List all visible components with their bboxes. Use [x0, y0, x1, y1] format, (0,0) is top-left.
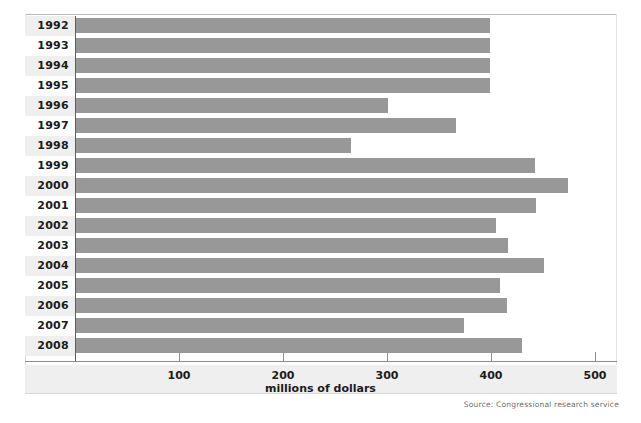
bar — [75, 138, 351, 153]
plot-area: 1992199319941995199619971998199920002001… — [0, 16, 641, 360]
bar — [75, 38, 490, 53]
chart-row: 1994 — [25, 56, 617, 76]
category-label: 2008 — [25, 336, 69, 356]
chart-row: 1998 — [25, 136, 617, 156]
x-axis-title: millions of dollars — [0, 382, 641, 395]
bar — [75, 338, 522, 353]
chart-row: 2004 — [25, 256, 617, 276]
x-axis-tick — [179, 352, 180, 361]
bar — [75, 98, 388, 113]
bar — [75, 18, 490, 33]
chart-row: 1995 — [25, 76, 617, 96]
bar — [75, 178, 568, 193]
chart-row: 1999 — [25, 156, 617, 176]
x-axis-tick-label: 500 — [565, 369, 625, 382]
category-label: 2002 — [25, 216, 69, 236]
chart-row: 2000 — [25, 176, 617, 196]
x-axis-tick-label: 300 — [357, 369, 417, 382]
x-axis-tick-label: 400 — [461, 369, 521, 382]
category-label: 1999 — [25, 156, 69, 176]
category-label: 2000 — [25, 176, 69, 196]
x-axis-tick-label: 100 — [149, 369, 209, 382]
category-label: 1994 — [25, 56, 69, 76]
category-label: 2003 — [25, 236, 69, 256]
chart-row: 2003 — [25, 236, 617, 256]
chart-row: 1992 — [25, 16, 617, 36]
category-label: 2001 — [25, 196, 69, 216]
chart-row: 2007 — [25, 316, 617, 336]
bar — [75, 298, 507, 313]
chart-row: 2005 — [25, 276, 617, 296]
category-label: 1997 — [25, 116, 69, 136]
chart-row: 1996 — [25, 96, 617, 116]
chart-row: 2006 — [25, 296, 617, 316]
category-label: 1992 — [25, 16, 69, 36]
chart-row: 2002 — [25, 216, 617, 236]
x-axis-tick — [283, 352, 284, 361]
bar — [75, 58, 490, 73]
bar — [75, 278, 500, 293]
category-label: 2005 — [25, 276, 69, 296]
chart-row: 1997 — [25, 116, 617, 136]
x-axis-tick — [387, 352, 388, 361]
bar — [75, 218, 496, 233]
x-axis-tick-label: 200 — [253, 369, 313, 382]
x-axis-tick — [595, 352, 596, 361]
category-label: 2004 — [25, 256, 69, 276]
bar — [75, 78, 490, 93]
x-axis-tick — [491, 352, 492, 361]
bar-chart: 1992199319941995199619971998199920002001… — [0, 0, 641, 423]
bar — [75, 318, 464, 333]
chart-row: 2001 — [25, 196, 617, 216]
source-note: Source: Congressional research service — [464, 400, 619, 409]
category-label: 1995 — [25, 76, 69, 96]
category-label: 1998 — [25, 136, 69, 156]
category-label: 2006 — [25, 296, 69, 316]
bar — [75, 198, 536, 213]
chart-row: 1993 — [25, 36, 617, 56]
category-label: 2007 — [25, 316, 69, 336]
bar — [75, 158, 535, 173]
bar — [75, 118, 456, 133]
x-axis-line — [25, 361, 617, 362]
category-label: 1996 — [25, 96, 69, 116]
value-axis-zero-line — [75, 16, 76, 361]
category-label: 1993 — [25, 36, 69, 56]
chart-row: 2008 — [25, 336, 617, 356]
bar — [75, 238, 508, 253]
bar — [75, 258, 544, 273]
frame-top-border — [25, 14, 617, 15]
